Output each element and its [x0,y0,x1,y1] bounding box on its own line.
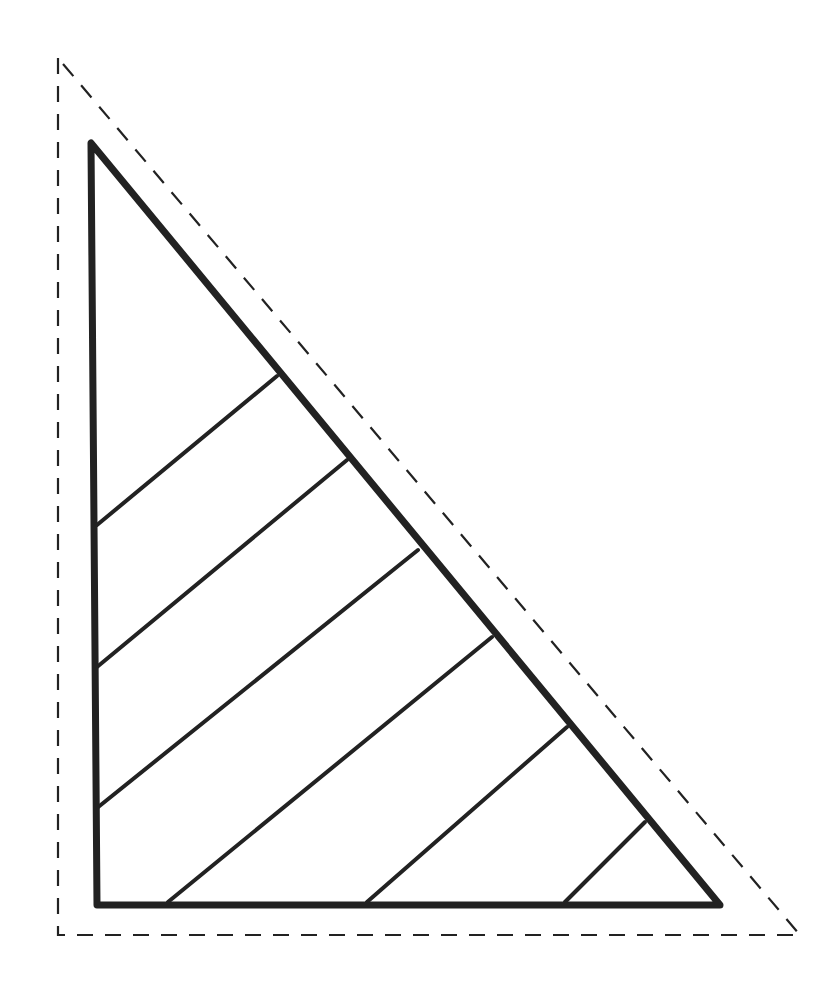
hatch-stripe-4 [168,637,492,902]
outer-dashed-triangle [58,58,800,935]
hatch-stripe-1 [97,376,277,525]
hatched-triangle-diagram [0,0,840,991]
hatch-stripe-5 [367,727,567,902]
hatch-stripe-3 [97,550,418,808]
hatch-stripes [97,376,645,902]
inner-solid-triangle [91,143,720,905]
hatch-stripe-6 [565,822,645,902]
